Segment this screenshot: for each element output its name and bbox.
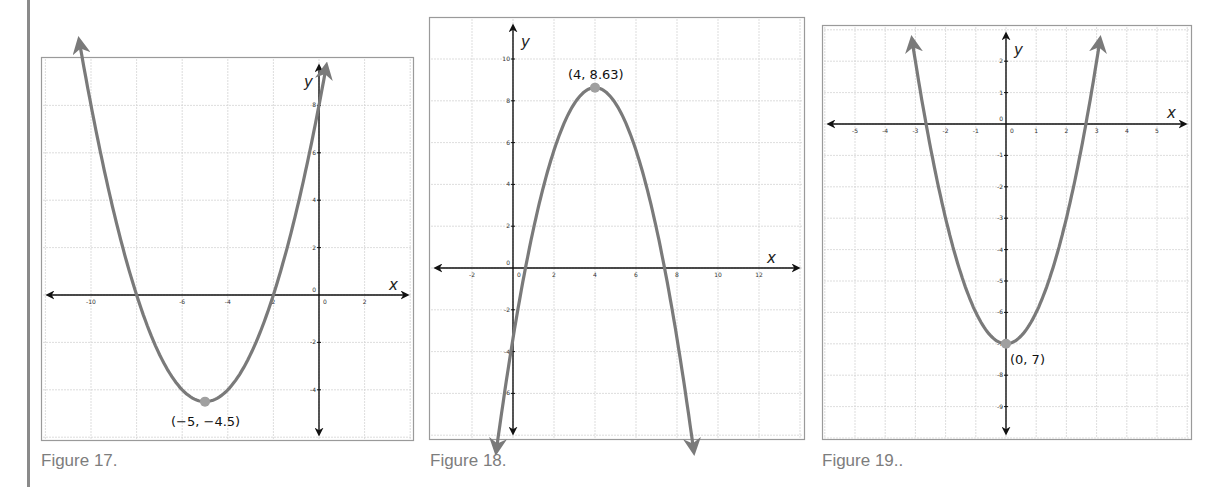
- vertex-point: [200, 397, 210, 407]
- y-tick-label: -4: [997, 246, 1003, 253]
- vertex-point: [1001, 339, 1011, 349]
- y-tick-label: 1: [999, 89, 1003, 96]
- x-tick-label: -4: [882, 127, 888, 134]
- x-tick-label: 6: [634, 271, 638, 278]
- y-tick-label: 4: [506, 180, 510, 187]
- x-tick-label: 3: [1095, 127, 1099, 134]
- y-tick-label: 2: [506, 222, 510, 229]
- figure-17-plot: -10-6-420286420-2-4xy(−5, −4.5): [41, 57, 414, 441]
- figure-18-caption: Figure 18.: [430, 451, 507, 471]
- vertex-point: [590, 83, 600, 93]
- x-tick-label: 5: [1155, 127, 1159, 134]
- x-tick-label: 0: [1010, 127, 1014, 134]
- y-tick-label: -5: [997, 277, 1003, 284]
- x-axis-label: x: [388, 276, 398, 294]
- x-tick-label: -4: [225, 298, 231, 305]
- x-tick-label: 2: [552, 271, 556, 278]
- x-tick-label: -3: [912, 127, 918, 134]
- y-tick-label: 4: [312, 196, 316, 203]
- y-tick-label: -3: [997, 214, 1003, 221]
- y-tick-label: 6: [506, 139, 510, 146]
- figure-19-plot: -5-4-3-2-1012345210-1-2-3-4-5-6-7-8-9xy(…: [822, 25, 1192, 440]
- x-tick-label: -1: [973, 127, 979, 134]
- y-axis-label: y: [520, 33, 531, 51]
- y-tick-label: -9: [997, 403, 1003, 410]
- left-margin-rule: [27, 0, 30, 487]
- x-tick-label: 10: [714, 271, 722, 278]
- vertex-label: (0, 7): [1010, 352, 1045, 367]
- x-tick-label: 2: [1064, 127, 1068, 134]
- x-tick-label: -10: [86, 298, 96, 305]
- x-tick-label: -2: [943, 127, 949, 134]
- y-axis-label: y: [303, 73, 314, 91]
- y-tick-label: -2: [504, 306, 510, 313]
- x-tick-label: 8: [675, 271, 679, 278]
- x-tick-label: 0: [323, 298, 327, 305]
- y-tick-label: -6: [997, 308, 1003, 315]
- y-tick-label: 8: [506, 97, 510, 104]
- x-tick-label: -6: [179, 298, 185, 305]
- x-tick-label: 12: [755, 271, 763, 278]
- y-tick-label: 6: [312, 149, 316, 156]
- y-tick-label: 8: [312, 101, 316, 108]
- figure-19-caption: Figure 19..: [822, 451, 903, 471]
- vertex-label: (4, 8.63): [568, 67, 624, 82]
- y-tick-label: -2: [997, 183, 1003, 190]
- x-axis-label: x: [1166, 104, 1176, 122]
- x-tick-label: -5: [852, 127, 858, 134]
- y-tick-label: -4: [310, 386, 316, 393]
- y-tick-label: -1: [997, 151, 1003, 158]
- y-axis-label: y: [1013, 41, 1024, 59]
- figure-17: -10-6-420286420-2-4xy(−5, −4.5): [41, 57, 414, 441]
- x-tick-label: 2: [363, 298, 367, 305]
- vertex-label: (−5, −4.5): [171, 414, 240, 429]
- y-tick-label: 0: [312, 286, 316, 293]
- y-tick-label: -8: [997, 371, 1003, 378]
- figure-17-caption: Figure 17.: [41, 451, 118, 471]
- x-axis-label: x: [766, 249, 776, 267]
- x-tick-label: -2: [469, 271, 475, 278]
- y-tick-label: 0: [506, 259, 510, 266]
- y-tick-label: 2: [312, 244, 316, 251]
- y-tick-label: -2: [310, 338, 316, 345]
- plot-frame: [823, 26, 1192, 440]
- figure-19: -5-4-3-2-1012345210-1-2-3-4-5-6-7-8-9xy(…: [822, 25, 1192, 440]
- x-tick-label: 4: [1125, 127, 1129, 134]
- x-tick-label: 1: [1034, 127, 1038, 134]
- figure-18-plot: -20246810121086420-2-4-6xy(4, 8.63): [429, 17, 805, 440]
- figure-18: -20246810121086420-2-4-6xy(4, 8.63): [429, 17, 805, 440]
- x-tick-label: 4: [593, 271, 597, 278]
- y-tick-label: 0: [999, 115, 1003, 122]
- x-tick-label: 0: [517, 271, 521, 278]
- y-tick-label: 10: [502, 55, 510, 62]
- y-tick-label: 2: [999, 57, 1003, 64]
